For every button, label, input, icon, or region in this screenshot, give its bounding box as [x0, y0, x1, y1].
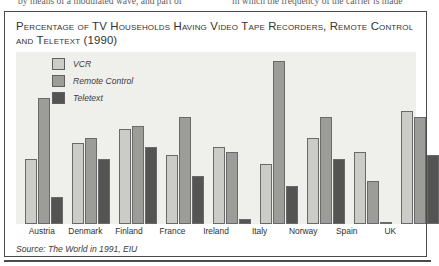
- x-axis-tick-label: Ireland: [198, 226, 234, 240]
- bar: [367, 181, 379, 224]
- bar-groups: [16, 52, 416, 224]
- bar-group: [353, 52, 392, 224]
- bar: [260, 164, 272, 224]
- bar-group: [118, 52, 157, 224]
- x-axis-tick-label: Italy: [242, 226, 278, 240]
- bar: [414, 117, 426, 224]
- bar: [25, 159, 37, 224]
- bar-group: [400, 52, 439, 224]
- bar: [119, 129, 131, 224]
- bar: [273, 61, 285, 224]
- bar: [38, 98, 50, 224]
- bar: [307, 138, 319, 224]
- page-text-left: by means of a modulated wave, and part o…: [18, 0, 182, 6]
- bar-group: [306, 52, 345, 224]
- x-axis-tick-label: Austria: [24, 226, 60, 240]
- bar-group: [24, 52, 63, 224]
- bar: [192, 176, 204, 224]
- bar: [401, 111, 413, 225]
- bar: [239, 219, 251, 224]
- figure-container: Percentage of TV Households Having Video…: [4, 11, 427, 257]
- bar-group: [71, 52, 110, 224]
- bar: [98, 159, 110, 224]
- bar: [72, 143, 84, 224]
- bar: [145, 147, 157, 224]
- bar-group: [259, 52, 298, 224]
- bar: [213, 147, 225, 224]
- x-axis-labels: AustriaDenmarkFinlandFranceIrelandItalyN…: [16, 226, 416, 240]
- chart-title: Percentage of TV Households Having Video…: [16, 20, 416, 47]
- bar: [85, 138, 97, 224]
- page-body-text-clipped: by means of a modulated wave, and part o…: [0, 0, 435, 11]
- bar-group: [165, 52, 204, 224]
- bar: [320, 117, 332, 224]
- bar: [226, 152, 238, 224]
- chart-source: Source: The World in 1991, EIU: [16, 244, 137, 254]
- bar: [179, 117, 191, 224]
- bar: [380, 222, 392, 224]
- page-bottom-rule: [4, 260, 431, 262]
- bar: [427, 155, 439, 224]
- bar-group: [212, 52, 251, 224]
- bar: [166, 155, 178, 224]
- bar: [354, 152, 366, 224]
- bar: [51, 197, 63, 225]
- x-axis-tick-label: UK: [373, 226, 409, 240]
- bar: [132, 126, 144, 224]
- bar: [286, 186, 298, 224]
- plot-area: VCR Remote Control Teletext: [16, 52, 416, 224]
- x-axis-tick-label: Finland: [111, 226, 147, 240]
- bar: [333, 159, 345, 224]
- page-text-right: in which the frequency of the carrier is…: [232, 0, 402, 6]
- x-axis-tick-label: Spain: [329, 226, 365, 240]
- x-axis-tick-label: France: [155, 226, 191, 240]
- x-axis-tick-label: Norway: [285, 226, 321, 240]
- x-axis-tick-label: Denmark: [68, 226, 104, 240]
